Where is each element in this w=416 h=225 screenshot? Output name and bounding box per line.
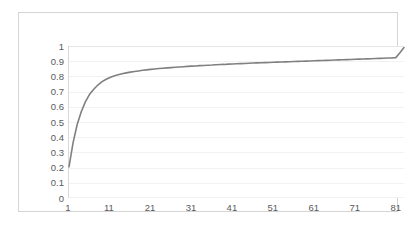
x-tick-label-1: 1 (65, 201, 70, 215)
x-tick-label-81: 81 (391, 201, 402, 215)
chart-root: 10.90.80.70.60.50.40.30.20.10 1112131415… (0, 0, 416, 225)
plot-area (68, 46, 404, 198)
x-tick-label-51: 51 (268, 201, 279, 215)
x-axis-tick-labels: 11121314151617181 (68, 201, 404, 217)
x-tick-label-21: 21 (145, 201, 156, 215)
y-tick-label-1: 1 (31, 40, 64, 53)
x-tick-label-11: 11 (104, 201, 114, 215)
x-tick-label-61: 61 (309, 201, 320, 215)
x-tick-label-41: 41 (227, 201, 238, 215)
y-tick-label-0.3: 0.3 (31, 146, 64, 159)
chart-frame: 10.90.80.70.60.50.40.30.20.10 1112131415… (18, 12, 398, 212)
y-tick-label-0.7: 0.7 (31, 85, 64, 98)
gridline-y-0 (69, 197, 404, 198)
x-tick-label-71: 71 (350, 201, 361, 215)
y-tick-label-0.5: 0.5 (31, 116, 64, 129)
y-tick-label-0.9: 0.9 (31, 55, 64, 68)
y-axis-tick-labels: 10.90.80.70.60.50.40.30.20.10 (31, 39, 64, 205)
y-tick-label-0.1: 0.1 (31, 176, 64, 189)
x-tick-label-31: 31 (186, 201, 197, 215)
y-tick-label-0.8: 0.8 (31, 70, 64, 83)
y-tick-label-0.4: 0.4 (31, 131, 64, 144)
y-tick-label-0: 0 (31, 192, 64, 205)
series-1-line (69, 48, 404, 167)
y-tick-label-0.6: 0.6 (31, 100, 64, 113)
series-line-chart (69, 46, 404, 197)
y-tick-label-0.2: 0.2 (31, 161, 64, 174)
